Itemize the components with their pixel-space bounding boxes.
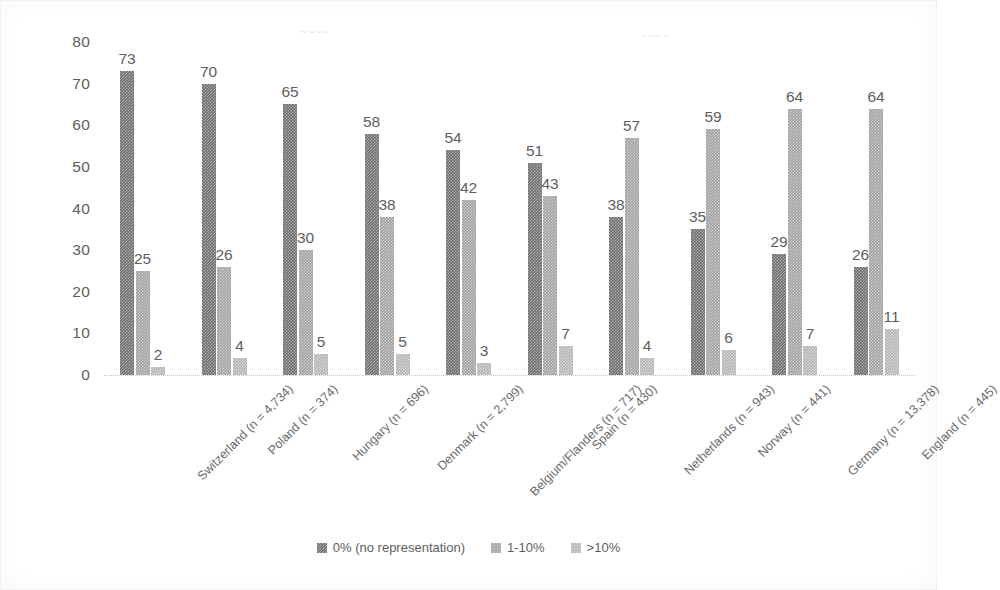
bar: 30 xyxy=(299,250,313,375)
legend-item[interactable]: 1-10% xyxy=(491,540,545,555)
bar-group: 29647 xyxy=(772,42,817,375)
bar-fill xyxy=(885,329,899,375)
bar: 2 xyxy=(151,367,165,375)
bar: 5 xyxy=(314,354,328,375)
bar: 38 xyxy=(380,217,394,375)
scan-smudge-right: ~~~~ xyxy=(640,30,670,42)
bar-fill xyxy=(365,134,379,375)
bar-fill xyxy=(314,354,328,375)
bar-value-label: 11 xyxy=(883,308,899,326)
bar-group: 35596 xyxy=(691,42,736,375)
bar-value-label: 57 xyxy=(623,117,640,135)
bar-fill xyxy=(854,267,868,375)
bar-fill xyxy=(706,129,720,375)
legend-swatch-icon xyxy=(491,543,501,553)
bar-value-label: 7 xyxy=(561,325,570,343)
legend-swatch-icon xyxy=(317,543,327,553)
bar-value-label: 35 xyxy=(689,208,706,226)
x-axis-category-label: Denmark (n = 2,799) xyxy=(435,382,526,473)
bar: 7 xyxy=(559,346,573,375)
y-tick-label: 60 xyxy=(72,116,90,134)
bar-fill xyxy=(299,250,313,375)
bar: 4 xyxy=(640,358,654,375)
bar-value-label: 73 xyxy=(118,50,135,68)
y-tick-label: 50 xyxy=(72,158,90,176)
bar-value-label: 58 xyxy=(363,113,380,131)
bar: 42 xyxy=(462,200,476,375)
bar-group: 54423 xyxy=(446,42,491,375)
bar-group: 51437 xyxy=(528,42,573,375)
bar-fill xyxy=(788,109,802,375)
bar-fill xyxy=(722,350,736,375)
bar-value-label: 64 xyxy=(867,88,884,106)
bar: 57 xyxy=(625,138,639,375)
bar-value-label: 7 xyxy=(806,325,815,343)
bar-group: 58385 xyxy=(365,42,410,375)
bar-fill xyxy=(217,267,231,375)
bar: 7 xyxy=(803,346,817,375)
x-axis-baseline xyxy=(104,375,916,376)
bar: 35 xyxy=(691,229,705,375)
bar: 70 xyxy=(202,84,216,375)
bar-fill xyxy=(151,367,165,375)
bar: 4 xyxy=(233,358,247,375)
bar-fill xyxy=(691,229,705,375)
bar-value-label: 2 xyxy=(154,346,163,364)
bar: 25 xyxy=(136,271,150,375)
legend-item[interactable]: >10% xyxy=(571,540,621,555)
bar-fill xyxy=(640,358,654,375)
y-tick-label: 80 xyxy=(72,33,90,51)
bar-fill xyxy=(477,363,491,375)
bar-value-label: 4 xyxy=(643,337,652,355)
bar-value-label: 26 xyxy=(215,246,232,264)
bar: 11 xyxy=(885,329,899,375)
bar-fill xyxy=(380,217,394,375)
bar-fill xyxy=(446,150,460,375)
y-tick-label: 10 xyxy=(72,324,90,342)
bar-group: 266411 xyxy=(854,42,899,375)
bar-value-label: 64 xyxy=(786,88,803,106)
bar: 5 xyxy=(396,354,410,375)
bar-fill xyxy=(462,200,476,375)
bar: 58 xyxy=(365,134,379,375)
bar-value-label: 4 xyxy=(235,337,244,355)
bar-fill xyxy=(528,163,542,375)
bar: 73 xyxy=(120,71,134,375)
bar-fill xyxy=(543,196,557,375)
legend-item[interactable]: 0% (no representation) xyxy=(317,540,465,555)
bar-fill xyxy=(869,109,883,375)
bar-value-label: 38 xyxy=(607,196,624,214)
bar-fill xyxy=(772,254,786,375)
bar-value-label: 54 xyxy=(444,129,461,147)
scan-smudge-left: ~~~~ xyxy=(300,26,330,38)
bar-group: 38574 xyxy=(609,42,654,375)
bar: 65 xyxy=(283,104,297,375)
bar-value-label: 43 xyxy=(541,175,558,193)
bar-fill xyxy=(803,346,817,375)
bar-value-label: 65 xyxy=(281,83,298,101)
bar-value-label: 30 xyxy=(297,229,314,247)
bar-value-label: 5 xyxy=(317,333,326,351)
bar: 54 xyxy=(446,150,460,375)
bar: 38 xyxy=(609,217,623,375)
bar: 26 xyxy=(854,267,868,375)
bar-value-label: 26 xyxy=(852,246,869,264)
bar-value-label: 70 xyxy=(200,63,217,81)
bar-fill xyxy=(283,104,297,375)
y-axis: 01020304050607080 xyxy=(0,42,104,375)
bar: 6 xyxy=(722,350,736,375)
legend-label: 1-10% xyxy=(507,540,545,555)
bar: 59 xyxy=(706,129,720,375)
bar-fill xyxy=(120,71,134,375)
legend-label: >10% xyxy=(587,540,621,555)
x-axis-category-labels: Switzerland (n = 4,734)Poland (n = 374)H… xyxy=(0,378,937,528)
bar-fill xyxy=(559,346,573,375)
bar: 51 xyxy=(528,163,542,375)
bar: 26 xyxy=(217,267,231,375)
bar-fill xyxy=(609,217,623,375)
bar-value-label: 59 xyxy=(704,108,721,126)
bar-value-label: 38 xyxy=(378,196,395,214)
y-tick-label: 20 xyxy=(72,283,90,301)
bar-value-label: 42 xyxy=(460,179,477,197)
bar-value-label: 6 xyxy=(724,329,733,347)
